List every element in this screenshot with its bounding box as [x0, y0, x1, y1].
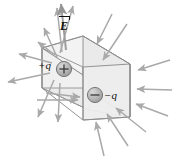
field-arrow-in-right-3: [136, 104, 168, 116]
label-positive-charge: +q: [38, 60, 51, 71]
negative-charge: [87, 87, 102, 102]
field-arrow-in-bottom-1: [96, 122, 104, 156]
label-E-text: E: [60, 20, 68, 32]
positive-charge: [56, 61, 71, 76]
label-negative-charge: −q: [104, 90, 117, 101]
electric-field-dipole-figure: E +q −q: [0, 0, 178, 160]
label-electric-field-vector: E: [60, 20, 68, 32]
field-arrow-in-bottom-2: [107, 114, 128, 146]
field-arrow-in-topright-2: [97, 14, 112, 44]
field-arrow-in-right-2: [137, 89, 172, 90]
field-arrow-in-right-1: [138, 60, 170, 70]
field-arrow-in-bottomright-1: [116, 108, 146, 132]
gaussian-box: [42, 36, 130, 120]
figure-canvas: [0, 0, 178, 160]
